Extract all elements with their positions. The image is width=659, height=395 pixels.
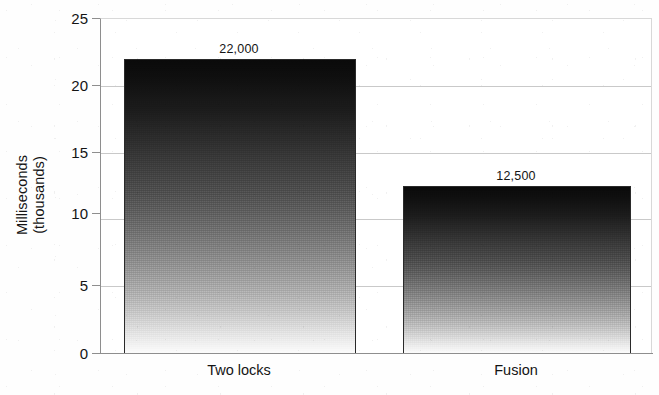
x-category-label-two-locks: Two locks: [123, 362, 355, 378]
bar-texture-two-locks: [125, 60, 355, 353]
bar-value-label-two-locks: 22,000: [123, 42, 355, 56]
y-axis-title-container: Milliseconds(thousands): [0, 0, 60, 395]
y-tick-label-5: 5: [54, 278, 88, 293]
y-tick-label-0: 0: [54, 346, 88, 361]
y-axis-title-line1: Milliseconds: [14, 155, 30, 235]
bar-value-label-fusion: 12,500: [402, 169, 630, 183]
bar-two-locks[interactable]: [124, 59, 356, 353]
y-tick-label-15: 15: [54, 145, 88, 160]
x-category-label-fusion: Fusion: [402, 362, 630, 378]
bar-chart-figure: Milliseconds(thousands) 25 20 15 10 5 0: [0, 0, 659, 395]
y-axis-title: Milliseconds(thousands): [14, 102, 48, 288]
y-axis-title-line2: (thousands): [31, 156, 47, 234]
y-tick-label-20: 20: [54, 78, 88, 93]
plot-area: [100, 18, 652, 353]
bar-texture-fusion: [404, 187, 630, 353]
y-tick-label-25: 25: [54, 11, 88, 26]
x-axis-baseline: [100, 353, 653, 355]
plot-inner: [101, 19, 651, 353]
bar-fusion[interactable]: [403, 186, 631, 353]
y-tick-label-10: 10: [54, 206, 88, 221]
